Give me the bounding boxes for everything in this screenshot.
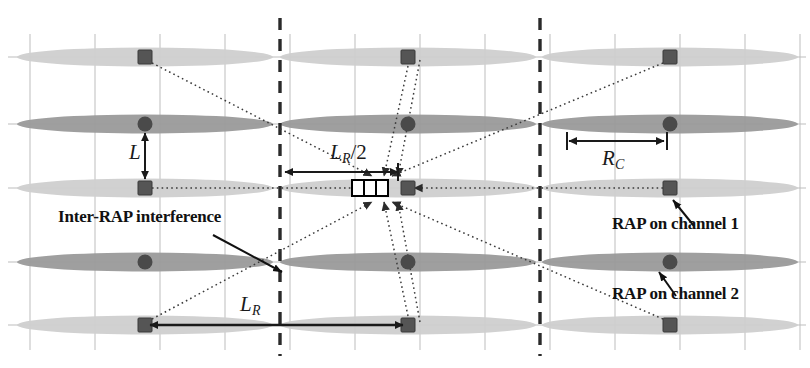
rap-square [401, 318, 415, 332]
rap-circle [138, 255, 153, 270]
dimension-label-LR: LR [240, 294, 260, 318]
network-layout-figure: Inter-RAP interference RAP on channel 1 … [0, 0, 810, 368]
rap-circle [663, 117, 678, 132]
rap-square [663, 318, 677, 332]
rap-square [663, 50, 677, 64]
rap-square [138, 318, 152, 332]
diagram-canvas [0, 0, 810, 368]
rap-circle [138, 117, 153, 132]
dimension-label-RC: RC [602, 148, 624, 172]
label-rap-on-channel-1: RAP on channel 1 [612, 215, 739, 232]
dimension-label-LR-half: LR/2 [330, 142, 367, 166]
rap-circle [401, 117, 416, 132]
vehicle-receiver [352, 180, 388, 196]
rap-circle [401, 255, 416, 270]
label-inter-rap-interference: Inter-RAP interference [58, 208, 221, 225]
rap-square [138, 50, 152, 64]
rap-square [401, 50, 415, 64]
rap-square [138, 181, 152, 195]
label-rap-on-channel-2: RAP on channel 2 [612, 285, 739, 302]
dimension-label-L: L [129, 142, 141, 163]
rap-square [401, 181, 415, 195]
rap-circle [663, 255, 678, 270]
rap-square [663, 181, 677, 195]
